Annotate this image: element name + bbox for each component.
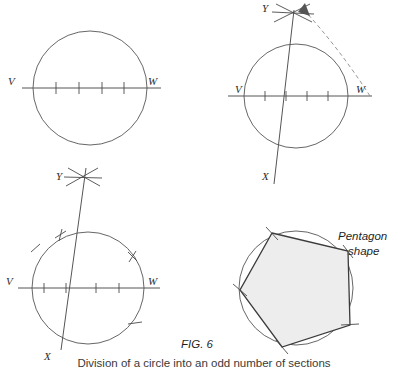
pentagon-label-line1: Pentagon [338,230,387,242]
panel-step-2: Y V W X [228,2,372,184]
pentagon-label-line2: shape [348,245,379,257]
label-v-step2: V [235,83,243,95]
figure-number: FIG. 6 [181,338,214,350]
inscribed-pentagon [240,233,350,347]
label-y-step3: Y [56,170,64,182]
bisector-arc-marks-y [64,168,102,186]
label-w-step2: W [356,83,366,95]
construction-line-yx [61,168,86,350]
figure-sheet: V W Y V W [0,0,408,368]
label-v-step3: V [6,275,14,287]
panel-step-4: Pentagon shape [233,227,387,354]
label-y-step2: Y [262,2,270,14]
label-x-step3: X [43,350,52,362]
label-w-step3: W [148,275,158,287]
label-x-step2: X [261,170,270,182]
label-v-step1: V [8,75,16,87]
construction-line-yx [274,10,294,184]
figure-caption: Division of a circle into an odd number … [77,357,330,368]
panel-step-3: Y V W X [6,168,160,362]
label-w-step1: W [148,75,158,87]
panel-step-1: V W [8,31,161,145]
circumference-step-marks [31,229,142,324]
figure-6-illustration: V W Y V W [0,0,408,368]
